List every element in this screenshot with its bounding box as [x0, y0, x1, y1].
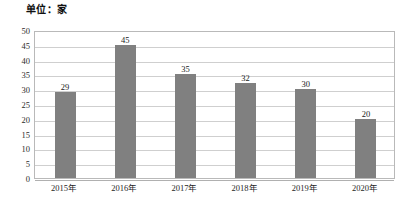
y-axis-tick-label: 20	[0, 115, 30, 124]
x-axis: 2015年2016年2017年2018年2019年2020年	[34, 182, 395, 202]
gridline	[35, 180, 394, 181]
x-axis-tick-label: 2016年	[94, 182, 154, 194]
bar-value-label: 20	[346, 109, 386, 119]
y-axis-tick-label: 35	[0, 71, 30, 80]
y-axis-tick-label: 40	[0, 56, 30, 65]
x-axis-tick-label: 2018年	[215, 182, 275, 194]
y-axis-tick-label: 10	[0, 145, 30, 154]
x-axis-tick-label: 2020年	[335, 182, 395, 194]
bar-value-label: 29	[45, 82, 85, 92]
y-axis-tick-label: 30	[0, 86, 30, 95]
y-axis-tick-label: 45	[0, 41, 30, 50]
bar-value-label: 30	[286, 79, 326, 89]
plot-area: 294535323020	[34, 31, 395, 179]
y-axis-tick-label: 5	[0, 160, 30, 169]
y-axis-tick-label: 50	[0, 27, 30, 36]
chart-title: 单位：家	[26, 3, 67, 17]
bar-value-label: 32	[226, 73, 266, 83]
bar-chart: 单位：家 05101520253035404550 294535323020 2…	[0, 0, 414, 211]
x-axis-tick-label: 2017年	[154, 182, 214, 194]
bar-value-label: 35	[165, 64, 205, 74]
y-axis-tick-label: 25	[0, 101, 30, 110]
y-axis-tick-label: 0	[0, 175, 30, 184]
bar-value-label: 45	[105, 35, 145, 45]
x-axis-tick-label: 2019年	[275, 182, 335, 194]
x-axis-tick-label: 2015年	[34, 182, 94, 194]
y-axis: 05101520253035404550	[0, 31, 30, 179]
data-labels-group: 294535323020	[35, 32, 394, 178]
y-axis-tick-label: 15	[0, 130, 30, 139]
